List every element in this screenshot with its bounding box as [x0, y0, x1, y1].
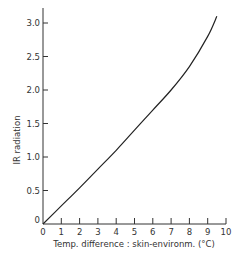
x-axis-label: Temp. difference : skin-environm. (°C): [52, 239, 215, 249]
ir-radiation-chart: 00.51.01.52.02.53.0 012345678910 Temp. d…: [0, 0, 244, 262]
ir-radiation-curve: [43, 16, 217, 224]
y-tick-label: 2.0: [26, 85, 40, 95]
x-axis: 012345678910: [40, 218, 231, 237]
y-tick-label: 2.5: [26, 52, 40, 62]
x-tick-label: 6: [150, 227, 155, 237]
x-tick-label: 8: [187, 227, 192, 237]
x-tick-label: 0: [40, 227, 45, 237]
y-axis: 00.51.01.52.02.53.0: [26, 8, 48, 225]
x-tick-label: 10: [221, 227, 232, 237]
x-tick-label: 3: [95, 227, 100, 237]
x-tick-label: 5: [132, 227, 137, 237]
x-tick-label: 9: [205, 227, 210, 237]
y-tick-label: 3.0: [26, 18, 40, 28]
x-tick-label: 4: [113, 227, 118, 237]
y-tick-label: 1.5: [26, 119, 40, 129]
x-tick-label: 1: [59, 227, 64, 237]
y-tick-label: 0.5: [26, 186, 40, 196]
x-tick-label: 2: [77, 227, 82, 237]
y-tick-label: 1.0: [26, 152, 40, 162]
x-tick-label: 7: [168, 227, 173, 237]
y-axis-label: IR radiation: [12, 115, 22, 164]
y-tick-label: 0: [35, 215, 40, 225]
